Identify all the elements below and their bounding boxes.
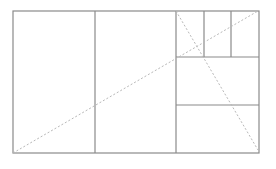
diagonal-secondary <box>176 11 258 150</box>
golden-rectangle-diagram <box>0 0 276 169</box>
diagonal-main <box>13 11 258 153</box>
